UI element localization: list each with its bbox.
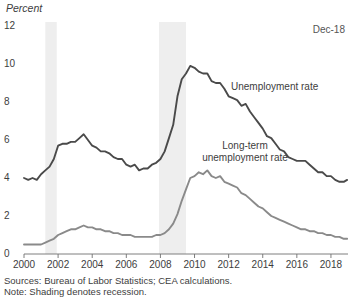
series-label-unemployment-rate: Unemployment rate	[231, 81, 318, 93]
recession-band	[45, 22, 56, 254]
shading-note: Note: Shading denotes recession.	[4, 286, 147, 297]
recession-band	[159, 22, 186, 254]
series-label-unemployment-rate-text: Unemployment rate	[231, 81, 318, 92]
series-label-long-term-unemployment-rate: Long-term unemployment rate	[191, 140, 299, 164]
recession-shading	[45, 22, 186, 254]
axis-lines	[24, 254, 348, 258]
source-note: Sources: Bureau of Labor Statistics; CEA…	[4, 275, 232, 286]
series-label-long-term-line1: Long-term	[191, 140, 299, 152]
series-label-long-term-line2: unemployment rate	[191, 152, 299, 164]
